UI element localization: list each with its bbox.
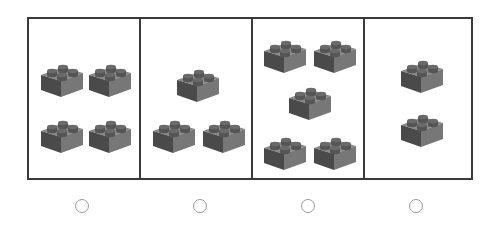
option-radio-a[interactable] (75, 199, 89, 213)
lego-brick-icon (87, 59, 133, 99)
lego-brick-icon (312, 35, 358, 75)
option-radio-b[interactable] (193, 199, 207, 213)
lego-brick-icon (87, 115, 133, 155)
lego-brick-icon (262, 35, 308, 75)
option-radio-c[interactable] (301, 199, 315, 213)
lego-brick-icon (312, 132, 358, 172)
option-panel-d[interactable] (363, 19, 471, 178)
option-panel-b[interactable] (139, 19, 251, 178)
lego-brick-icon (175, 64, 221, 104)
lego-brick-icon (399, 55, 445, 95)
lego-brick-icon (262, 132, 308, 172)
option-radio-d[interactable] (409, 199, 423, 213)
lego-brick-icon (39, 115, 85, 155)
lego-brick-icon (399, 109, 445, 149)
option-panel-a[interactable] (29, 19, 139, 178)
lego-brick-icon (287, 82, 333, 122)
option-panel-c[interactable] (251, 19, 363, 178)
lego-brick-icon (39, 59, 85, 99)
lego-brick-icon (201, 115, 247, 155)
lego-brick-icon (151, 115, 197, 155)
choice-panels (27, 17, 473, 180)
